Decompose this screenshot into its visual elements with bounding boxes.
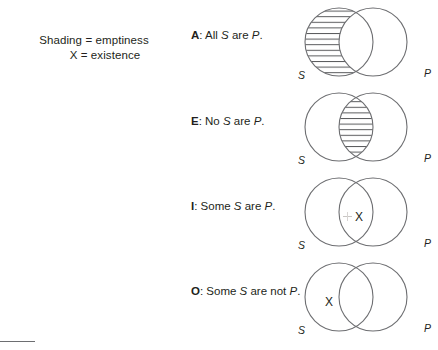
proposition-text-middle-a: are <box>229 29 252 41</box>
venn-svg-e <box>296 87 438 172</box>
legend-shading-line: Shading = emptiness <box>14 33 174 48</box>
proposition-letter-o: O <box>191 285 200 297</box>
venn-svg-o <box>296 257 438 342</box>
proposition-subject-i: S <box>234 200 242 212</box>
set-label-p-i: P <box>424 237 431 249</box>
proposition-text-after-e: . <box>261 115 264 127</box>
footnote-rule <box>0 341 35 342</box>
proposition-subject-a: S <box>221 29 229 41</box>
proposition-label-o: O: Some S are not P. <box>191 284 309 298</box>
proposition-text-middle-e: are <box>231 115 254 127</box>
set-label-s-e: S <box>298 154 305 166</box>
venn-diagram-i: X S P <box>296 172 438 257</box>
venn-svg-i <box>296 172 438 257</box>
proposition-text-before-o: Some <box>206 285 239 297</box>
proposition-letter-e: E <box>191 115 199 127</box>
proposition-text-after-i: . <box>272 200 275 212</box>
proposition-text-before-a: All <box>205 29 221 41</box>
legend: Shading = emptiness X = existence <box>14 33 174 63</box>
set-label-p-a: P <box>424 67 431 79</box>
proposition-text-before-i: Some <box>201 200 234 212</box>
set-label-p-o: P <box>424 322 431 334</box>
shaded-region-s-only-a <box>296 2 438 87</box>
venn-svg-a <box>296 2 438 87</box>
figure-canvas: Shading = emptiness X = existence A: All… <box>0 0 438 350</box>
venn-diagram-a: S P <box>296 2 438 87</box>
existence-marker-i: X <box>355 210 363 224</box>
set-label-s-a: S <box>298 69 305 81</box>
proposition-label-i: I: Some S are P. <box>191 199 309 213</box>
proposition-text-after-a: . <box>259 29 262 41</box>
venn-diagram-e: S P <box>296 87 438 172</box>
proposition-text-middle-o: are not <box>247 285 289 297</box>
proposition-label-a: A: All S are P. <box>191 28 309 42</box>
set-label-p-e: P <box>424 152 431 164</box>
proposition-subject-e: S <box>223 115 231 127</box>
existence-marker-o: X <box>325 295 333 309</box>
proposition-text-middle-i: are <box>242 200 265 212</box>
legend-x-line: X = existence <box>14 48 174 63</box>
proposition-label-e: E: No S are P. <box>191 114 309 128</box>
set-label-s-o: S <box>298 324 305 336</box>
proposition-text-before-e: No <box>205 115 223 127</box>
venn-diagram-o: X S P <box>296 257 438 342</box>
tick-artifact-i <box>343 216 352 217</box>
shaded-region-overlap-e <box>296 87 438 172</box>
set-label-s-i: S <box>298 239 305 251</box>
